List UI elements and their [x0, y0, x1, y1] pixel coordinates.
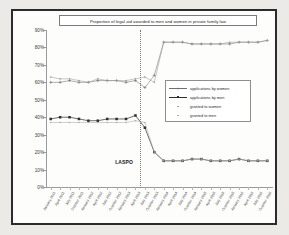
data-point — [144, 122, 146, 124]
data-point — [50, 122, 52, 124]
legend-item: granted to men — [169, 111, 247, 120]
x-tick-mark — [230, 187, 231, 190]
series-granted-to-men — [50, 120, 268, 162]
data-point — [69, 122, 71, 124]
data-point — [172, 160, 174, 162]
data-point — [153, 82, 155, 84]
data-point — [153, 151, 155, 153]
legend-marker-granted-men — [169, 112, 187, 119]
data-point — [116, 80, 118, 82]
data-point — [50, 76, 52, 78]
data-point — [125, 80, 127, 82]
data-point — [229, 41, 231, 43]
data-point — [106, 118, 109, 121]
data-point — [78, 80, 80, 82]
series-line — [51, 40, 268, 82]
data-point — [49, 118, 52, 121]
data-point — [97, 119, 100, 122]
data-point — [238, 158, 240, 160]
legend-marker-applications-women: + — [169, 85, 187, 92]
x-tick-mark — [192, 187, 193, 190]
data-point — [125, 118, 128, 121]
data-point — [135, 78, 137, 80]
x-tick-mark — [220, 187, 221, 190]
data-point — [49, 81, 52, 84]
data-point — [163, 160, 165, 162]
legend-marker-applications-men — [169, 94, 187, 101]
data-point — [266, 160, 268, 162]
data-point — [88, 82, 90, 84]
data-point — [134, 114, 137, 117]
data-point — [248, 41, 250, 43]
data-point — [59, 81, 62, 84]
data-point — [210, 43, 212, 45]
data-point — [59, 78, 61, 80]
x-tick-mark — [88, 187, 89, 190]
x-tick-mark — [201, 187, 202, 190]
plot-wrapper: Proportion of legal aid awarded to men a… — [13, 11, 275, 223]
data-point — [191, 158, 193, 160]
legend-label: applications by women — [190, 84, 229, 93]
data-point — [106, 80, 108, 82]
data-point — [87, 119, 90, 122]
x-tick-mark — [248, 187, 249, 190]
data-point — [182, 160, 184, 162]
x-tick-mark — [126, 187, 127, 190]
data-point — [201, 43, 203, 45]
data-point — [97, 78, 99, 80]
data-point — [266, 40, 268, 42]
data-point — [97, 122, 99, 124]
data-point — [69, 78, 71, 80]
x-tick-label: January 2011 — [42, 191, 56, 211]
data-point — [106, 122, 108, 124]
x-tick-mark — [98, 187, 99, 190]
data-point — [238, 41, 240, 43]
x-tick-mark — [154, 187, 155, 190]
data-point — [78, 118, 81, 121]
series-line — [51, 121, 268, 161]
data-point — [210, 160, 212, 162]
data-point — [257, 160, 259, 162]
legend-item: + applications by women — [169, 84, 247, 93]
legend-label: granted to men — [190, 111, 216, 120]
x-tick-mark — [51, 187, 52, 190]
data-point — [144, 126, 147, 129]
data-point — [219, 160, 221, 162]
legend-marker-granted-women — [169, 103, 187, 110]
data-point — [229, 160, 231, 162]
data-point — [257, 41, 259, 43]
data-point — [172, 41, 174, 43]
data-point — [248, 160, 250, 162]
data-point — [182, 41, 184, 43]
legend-item: granted to women — [169, 102, 247, 111]
data-point — [59, 122, 61, 124]
data-point — [59, 116, 62, 119]
x-tick-mark — [117, 187, 118, 190]
x-axis-tick-labels: January 2011April 2011July 2011October 2… — [13, 191, 279, 225]
x-tick-mark — [267, 187, 268, 190]
data-point — [135, 120, 137, 122]
x-tick-mark — [183, 187, 184, 190]
chart-legend: + applications by women applications by … — [165, 80, 251, 122]
x-tick-mark — [164, 187, 165, 190]
x-tick-mark — [145, 187, 146, 190]
data-point — [201, 158, 203, 160]
data-point — [144, 76, 146, 78]
x-tick-mark — [60, 187, 61, 190]
x-tick-mark — [258, 187, 259, 190]
x-tick-mark — [135, 187, 136, 190]
x-tick-mark — [239, 187, 240, 190]
data-point — [163, 41, 165, 43]
data-point — [219, 43, 221, 45]
x-tick-mark — [211, 187, 212, 190]
x-tick-mark — [107, 187, 108, 190]
x-tick-mark — [70, 187, 71, 190]
legend-label: applications by men — [190, 93, 224, 102]
x-tick-mark — [173, 187, 174, 190]
data-point — [68, 116, 71, 119]
chart-figure: Proportion of legal aid awarded to men a… — [11, 9, 277, 225]
data-point — [115, 118, 118, 121]
legend-label: granted to women — [190, 102, 221, 111]
data-point — [88, 122, 90, 124]
data-point — [78, 122, 80, 124]
